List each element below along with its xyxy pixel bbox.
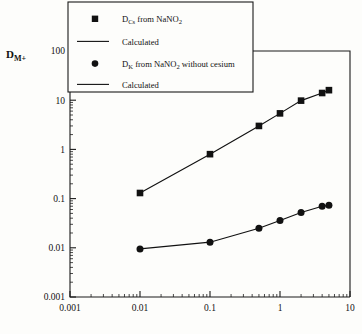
y-tick-label: 100	[51, 46, 66, 56]
series-line	[140, 90, 329, 193]
data-point-marker	[207, 151, 214, 158]
data-point-marker	[319, 90, 326, 97]
x-tick-label: 10	[345, 303, 355, 313]
chart-legend: DCs from NaNO2CalculatedDK from NaNO2 wi…	[68, 2, 253, 92]
y-tick-label: 10	[56, 96, 66, 106]
y-tick-label: 0.001	[44, 292, 66, 302]
legend-marker-circle	[92, 60, 99, 67]
data-point-marker	[277, 110, 284, 117]
log-log-scatter-plot: 0.0010.010.11101000.0010.010.1110 DM+ DC…	[0, 0, 362, 334]
data-point-marker	[326, 87, 333, 94]
data-point-marker	[277, 217, 284, 224]
x-tick-label: 0.001	[59, 303, 81, 313]
data-point-marker	[319, 203, 326, 210]
plot-series	[137, 87, 333, 253]
y-axis-label-text: DM+	[6, 48, 27, 63]
chart-figure: 0.0010.010.11101000.0010.010.1110 DM+ DC…	[0, 0, 362, 334]
data-point-marker	[325, 202, 332, 209]
data-point-marker	[298, 209, 305, 216]
legend-entry-label: Calculated	[122, 80, 159, 90]
y-tick-label: 0.01	[48, 243, 65, 253]
legend-entry-label: Calculated	[122, 37, 159, 47]
x-tick-label: 1	[278, 303, 283, 313]
legend-marker-square	[92, 16, 98, 22]
data-point-marker	[255, 225, 262, 232]
data-point-marker	[256, 123, 263, 130]
y-tick-label: 1	[60, 145, 65, 155]
x-tick-label: 0.1	[204, 303, 216, 313]
y-axis-label: DM+	[6, 48, 27, 63]
data-point-marker	[207, 239, 214, 246]
data-point-marker	[137, 245, 144, 252]
data-point-marker	[298, 97, 305, 104]
x-tick-label: 0.01	[132, 303, 149, 313]
y-tick-label: 0.1	[53, 194, 65, 204]
data-point-marker	[137, 190, 144, 197]
